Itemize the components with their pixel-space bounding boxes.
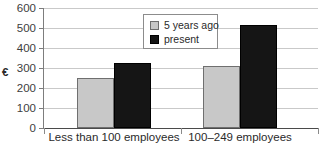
y-axis-tick (39, 8, 44, 9)
gridline (44, 8, 318, 9)
y-axis-tick (39, 28, 44, 29)
legend-label-past: 5 years ago (164, 20, 219, 30)
legend-swatch-present-icon (150, 35, 159, 44)
legend-swatch-past-icon (150, 21, 159, 30)
legend-item-present: present (150, 34, 199, 44)
x-axis-divider (181, 128, 182, 134)
y-axis-tick-label: 400 (0, 43, 36, 54)
chart-title: to small businesses (0, 0, 322, 2)
legend-label-present: present (164, 34, 199, 44)
y-axis-tick-label: 0 (0, 123, 36, 134)
x-axis-divider (318, 128, 319, 134)
chart-legend: 5 years ago present (143, 14, 218, 49)
bar-present-group-0 (114, 63, 151, 128)
y-axis-tick-label: 500 (0, 23, 36, 34)
y-axis-label: € (2, 67, 8, 78)
y-axis-tick-label: 100 (0, 103, 36, 114)
y-axis-tick (39, 68, 44, 69)
y-axis-tick-label: 200 (0, 83, 36, 94)
y-axis-tick (39, 48, 44, 49)
legend-item-past: 5 years ago (150, 20, 219, 30)
bar-past-group-0 (77, 78, 114, 128)
x-axis-category-label: 100–249 employees (160, 131, 320, 144)
bar-present-group-1 (240, 25, 277, 128)
x-axis-divider (44, 128, 45, 134)
y-axis-tick (39, 88, 44, 89)
bar-past-group-1 (203, 66, 240, 128)
y-axis-tick (39, 108, 44, 109)
bar-chart: to small businesses 0100200300400500600 … (0, 0, 322, 150)
y-axis-tick-label: 600 (0, 3, 36, 14)
